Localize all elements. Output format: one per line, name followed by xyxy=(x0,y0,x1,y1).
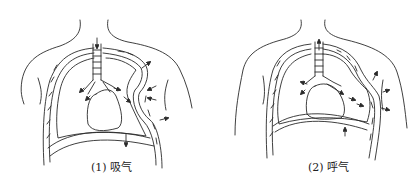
exhalation-panel: (2) 呼气 xyxy=(207,0,415,190)
inhalation-caption: (1) 吸气 xyxy=(91,158,132,174)
inhalation-panel: (1) 吸气 xyxy=(0,0,208,190)
exhalation-caption: (2) 呼气 xyxy=(308,158,349,174)
